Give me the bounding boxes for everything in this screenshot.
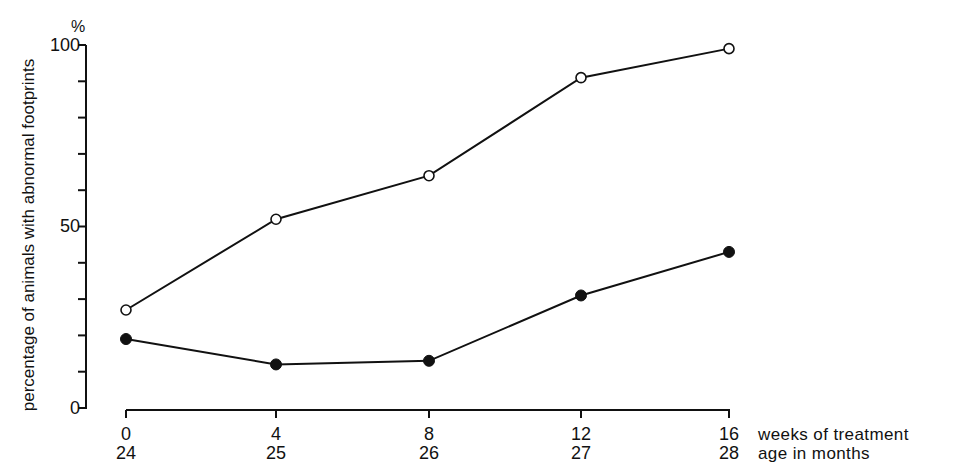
y-axis: 100 50 0 % percentage of animals with ab…: [19, 18, 86, 418]
x-tick-label-age: 26: [419, 443, 439, 463]
y-tick-label-0: 0: [70, 398, 80, 418]
x-axis-title-weeks: weeks of treatment: [757, 425, 909, 444]
x-tick-label-weeks: 8: [424, 424, 434, 444]
filled-circle-marker: [724, 246, 735, 257]
x-tick-label-age: 27: [571, 443, 591, 463]
series-filled-circles: [121, 246, 735, 370]
x-tick-label-weeks: 4: [271, 424, 281, 444]
x-tick-label-age: 25: [266, 443, 286, 463]
x-axis: 02442582612271628 weeks of treatment age…: [116, 410, 909, 463]
open-circle-marker: [724, 44, 734, 54]
x-axis-ticks: 02442582612271628: [116, 410, 739, 463]
line-chart: 100 50 0 % percentage of animals with ab…: [0, 0, 956, 472]
y-tick-label-100: 100: [50, 35, 80, 55]
open-circle-marker: [424, 171, 434, 181]
filled-circle-marker: [121, 334, 132, 345]
open-circle-marker: [121, 305, 131, 315]
filled-circle-marker: [576, 290, 587, 301]
x-tick-label-age: 28: [719, 443, 739, 463]
plot-area: [121, 44, 735, 370]
series-open-circles: [121, 44, 734, 315]
filled-circle-marker: [271, 359, 282, 370]
y-axis-title: percentage of animals with abnormal foot…: [19, 59, 38, 411]
x-tick-label-weeks: 16: [719, 424, 739, 444]
x-tick-label-weeks: 0: [121, 424, 131, 444]
open-circle-marker: [576, 73, 586, 83]
y-unit-label: %: [71, 18, 85, 35]
x-axis-title-age: age in months: [758, 444, 870, 463]
open-circle-marker: [271, 214, 281, 224]
x-tick-label-weeks: 12: [571, 424, 591, 444]
series-line: [126, 252, 729, 365]
filled-circle-marker: [424, 355, 435, 366]
y-tick-label-50: 50: [60, 216, 80, 236]
x-tick-label-age: 24: [116, 443, 136, 463]
